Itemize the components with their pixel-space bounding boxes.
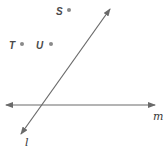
label-m: m <box>153 110 163 123</box>
label-l: l <box>25 136 29 149</box>
label-t: T <box>9 40 16 51</box>
label-s: S <box>56 6 63 17</box>
point-t <box>20 42 24 46</box>
label-u: U <box>36 40 44 51</box>
geometry-diagram: S T U m l <box>0 0 167 152</box>
diagram-svg: S T U m l <box>0 0 167 152</box>
line-l <box>41 9 110 106</box>
point-u <box>49 42 53 46</box>
point-s <box>67 8 71 12</box>
line-l-lower <box>21 106 41 134</box>
